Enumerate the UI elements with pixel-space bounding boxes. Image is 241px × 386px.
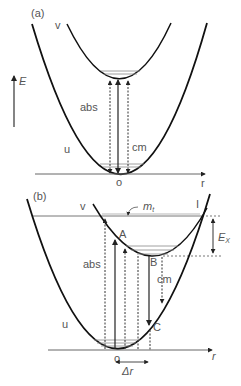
upper-curve-label: v [55, 19, 61, 31]
absorption-label: abs [80, 101, 98, 113]
origin-label: o [116, 176, 122, 188]
energy-gap-label: EX [218, 231, 230, 244]
lower-curve-label: u [62, 318, 68, 330]
ground-state-curve [32, 23, 207, 174]
panel-a: (a) v u E abs cm o r [14, 7, 207, 189]
displacement-label: Δr [121, 365, 134, 377]
emission-label: cm [157, 273, 172, 285]
mt-label: mt [143, 200, 155, 213]
absorption-label: abs [83, 258, 101, 270]
r-axis-label: r [212, 350, 217, 362]
panel-b-label: (b) [33, 190, 46, 202]
energy-axis-label: E [19, 75, 27, 87]
upper-curve-label: v [80, 200, 86, 212]
lower-curve-label: u [64, 143, 70, 155]
crossing-label: I [196, 198, 199, 210]
emission-label: cm [132, 141, 147, 153]
panel-a-label: (a) [31, 7, 44, 19]
excited-state-curve [67, 23, 171, 79]
point-c-label: C [153, 321, 161, 333]
panel-b: (b) v u mt I EX [27, 190, 230, 377]
r-axis-label: r [201, 177, 205, 189]
ground-state-curve [27, 194, 210, 349]
point-b-label: B [150, 256, 157, 268]
configuration-coordinate-figure: (a) v u E abs cm o r (b) v u [0, 0, 241, 386]
point-a-label: A [119, 228, 127, 240]
